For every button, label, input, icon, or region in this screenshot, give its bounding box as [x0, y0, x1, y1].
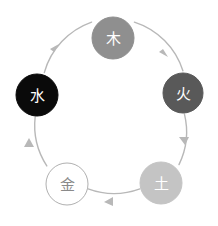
- arrowhead-metal-to-water: [24, 138, 34, 147]
- arc-earth-to-metal: [88, 189, 140, 194]
- node-water[interactable]: 水: [16, 74, 58, 116]
- node-metal-label: 金: [60, 176, 75, 194]
- node-water-label: 水: [30, 87, 45, 105]
- node-wood-label: 木: [106, 30, 121, 48]
- node-fire-label: 火: [176, 85, 191, 103]
- arc-metal-to-water: [35, 117, 47, 166]
- arc-wood-to-fire: [134, 22, 183, 71]
- node-fire[interactable]: 火: [163, 73, 203, 113]
- wuxing-cycle-diagram: 木 火 土 金 水: [0, 0, 218, 226]
- arrowhead-water-to-wood: [50, 44, 59, 52]
- node-wood[interactable]: 木: [92, 17, 134, 59]
- arrowhead-fire-to-earth: [179, 137, 189, 145]
- arrowhead-earth-to-metal: [104, 197, 113, 206]
- node-earth-label: 土: [154, 175, 169, 193]
- diagram-svg: 木 火 土 金 水: [0, 0, 218, 226]
- node-earth[interactable]: 土: [140, 162, 182, 204]
- arc-water-to-wood: [44, 22, 91, 73]
- arrowhead-wood-to-fire: [159, 49, 168, 57]
- node-metal[interactable]: 金: [46, 163, 88, 205]
